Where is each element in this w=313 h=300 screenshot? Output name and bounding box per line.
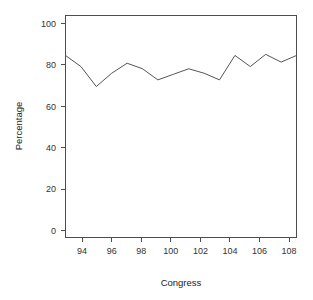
y-tick-label-0: 0 xyxy=(51,226,56,236)
x-tick-label-106: 106 xyxy=(252,246,267,256)
x-tick-label-104: 104 xyxy=(222,246,237,256)
x-tick-label-94: 94 xyxy=(77,246,87,256)
y-tick-label-20: 20 xyxy=(46,184,56,194)
chart-figure: 100 80 60 40 20 0 94 96 98 100 102 104 1 xyxy=(0,0,313,300)
x-axis-title: Congress xyxy=(161,277,202,288)
x-tick-label-100: 100 xyxy=(163,246,178,256)
y-tick-label-100: 100 xyxy=(41,19,56,29)
y-tick-label-60: 60 xyxy=(46,102,56,112)
x-tick-label-98: 98 xyxy=(136,246,146,256)
line-chart-plot: 100 80 60 40 20 0 94 96 98 100 102 104 1 xyxy=(0,0,313,300)
x-tick-label-102: 102 xyxy=(193,246,208,256)
y-tick-label-80: 80 xyxy=(46,60,56,70)
x-tick-label-108: 108 xyxy=(282,246,297,256)
y-tick-label-40: 40 xyxy=(46,143,56,153)
x-tick-label-96: 96 xyxy=(107,246,117,256)
y-axis-title: Percentage xyxy=(13,102,24,151)
